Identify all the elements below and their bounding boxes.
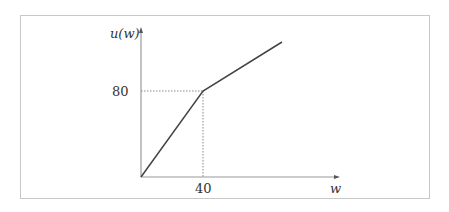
x-tick-label: 40 [195, 181, 212, 196]
utility-line [141, 42, 282, 177]
y-tick-label: 80 [112, 84, 129, 99]
x-axis-arrow-icon [334, 175, 340, 179]
chart-canvas: u(w) 80 40 w [0, 0, 449, 212]
x-axis-label: w [330, 181, 341, 196]
y-axis-label: u(w) [110, 26, 140, 41]
